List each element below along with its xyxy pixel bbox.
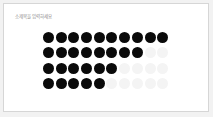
dot-grid	[43, 32, 170, 93]
filled-dot-icon	[43, 32, 54, 43]
empty-dot-icon	[145, 78, 156, 89]
empty-dot-icon	[145, 47, 156, 58]
filled-dot-icon	[94, 78, 105, 89]
dot-row	[43, 63, 170, 74]
filled-dot-icon	[56, 78, 67, 89]
filled-dot-icon	[81, 78, 92, 89]
empty-dot-icon	[119, 63, 130, 74]
filled-dot-icon	[43, 63, 54, 74]
filled-dot-icon	[68, 63, 79, 74]
filled-dot-icon	[43, 47, 54, 58]
slide-subtitle[interactable]: 소제목을 입력하세요	[15, 13, 52, 19]
empty-dot-icon	[157, 63, 168, 74]
filled-dot-icon	[106, 63, 117, 74]
dot-row	[43, 32, 170, 43]
empty-dot-icon	[157, 47, 168, 58]
empty-dot-icon	[106, 78, 117, 89]
filled-dot-icon	[68, 32, 79, 43]
dot-row	[43, 78, 170, 89]
filled-dot-icon	[94, 63, 105, 74]
filled-dot-icon	[119, 32, 130, 43]
empty-dot-icon	[132, 78, 143, 89]
filled-dot-icon	[56, 63, 67, 74]
filled-dot-icon	[81, 47, 92, 58]
filled-dot-icon	[81, 63, 92, 74]
filled-dot-icon	[43, 78, 54, 89]
empty-dot-icon	[157, 78, 168, 89]
filled-dot-icon	[94, 32, 105, 43]
filled-dot-icon	[106, 47, 117, 58]
filled-dot-icon	[157, 32, 168, 43]
empty-dot-icon	[145, 63, 156, 74]
dot-row	[43, 47, 170, 58]
filled-dot-icon	[132, 47, 143, 58]
filled-dot-icon	[68, 47, 79, 58]
filled-dot-icon	[94, 47, 105, 58]
filled-dot-icon	[56, 32, 67, 43]
filled-dot-icon	[132, 32, 143, 43]
filled-dot-icon	[145, 32, 156, 43]
filled-dot-icon	[119, 47, 130, 58]
empty-dot-icon	[132, 63, 143, 74]
filled-dot-icon	[81, 32, 92, 43]
empty-dot-icon	[119, 78, 130, 89]
filled-dot-icon	[106, 32, 117, 43]
filled-dot-icon	[68, 78, 79, 89]
filled-dot-icon	[56, 47, 67, 58]
slide-card: 소제목을 입력하세요	[3, 3, 209, 112]
